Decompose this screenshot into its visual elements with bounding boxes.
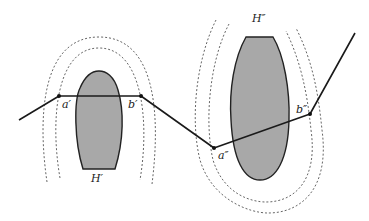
point-b1	[139, 94, 143, 98]
point-a2	[212, 146, 216, 150]
label-h1: H′	[90, 172, 104, 185]
label-h2: H″	[251, 12, 267, 25]
point-a1	[57, 94, 61, 98]
obstacle-h2	[231, 37, 290, 180]
path-polyline	[19, 33, 355, 148]
point-b2	[308, 112, 312, 116]
diagram-canvas: a′ b′ a″ b″ H′ H″	[0, 0, 369, 221]
label-b2: b″	[296, 103, 308, 116]
label-a2: a″	[218, 149, 230, 162]
label-b1: b′	[128, 98, 138, 111]
obstacle-h1	[76, 71, 122, 169]
label-a1: a′	[62, 98, 72, 111]
